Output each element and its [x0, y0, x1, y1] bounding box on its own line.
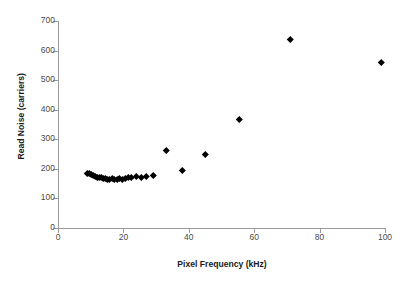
x-tick-label: 20: [103, 233, 143, 242]
data-point: [236, 116, 242, 122]
x-axis-title: Pixel Frequency (kHz): [58, 259, 386, 269]
x-tick-label: 40: [169, 233, 209, 242]
x-tick-label: 60: [234, 233, 274, 242]
data-point: [143, 173, 149, 179]
x-tick-label: 100: [365, 233, 405, 242]
x-tick-label: 0: [38, 233, 78, 242]
scatter-chart: 0100200300400500600700 020406080100 Read…: [0, 0, 410, 284]
data-point: [202, 151, 208, 157]
data-point: [179, 167, 185, 173]
y-tick-label: 100: [11, 193, 55, 202]
data-point: [287, 36, 293, 42]
data-point: [163, 147, 169, 153]
x-axis-line: [58, 228, 386, 229]
y-tick-label: 700: [11, 16, 55, 25]
x-tick-label: 80: [300, 233, 340, 242]
data-point: [150, 172, 156, 178]
y-axis-title: Read Noise (carriers): [17, 46, 26, 186]
data-point: [378, 59, 384, 65]
y-tick-label: 0: [11, 223, 55, 232]
